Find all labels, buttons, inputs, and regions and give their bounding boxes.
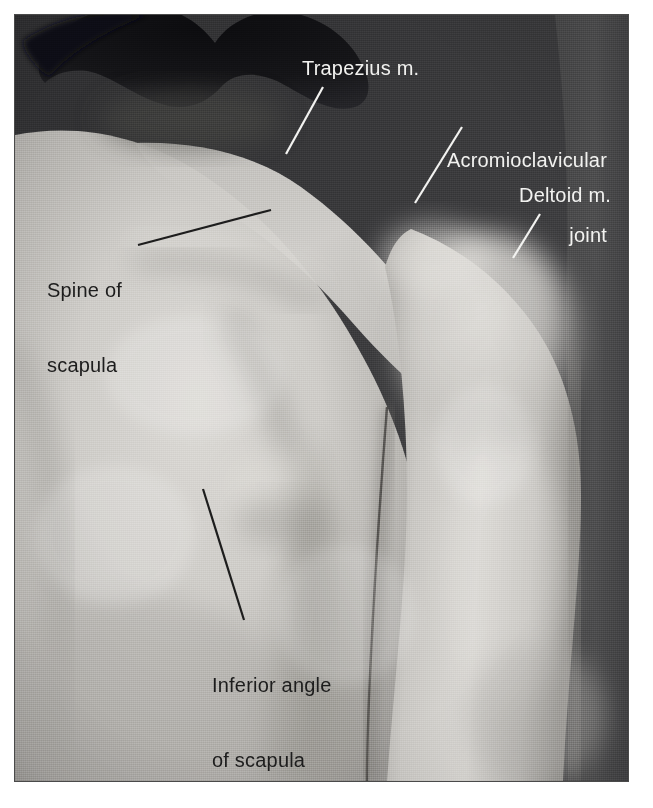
label-spine-of-scapula[interactable]: Spine of scapula <box>47 228 122 428</box>
label-acromioclavicular-joint-line1: Acromioclavicular <box>411 148 607 173</box>
label-acromioclavicular-joint-line2: joint <box>411 223 607 248</box>
label-deltoid[interactable]: Deltoid m. <box>519 183 611 208</box>
label-trapezius[interactable]: Trapezius m. <box>302 56 419 81</box>
label-spine-of-scapula-line1: Spine of <box>47 278 122 303</box>
label-inferior-angle-of-scapula-line2: of scapula <box>212 748 332 773</box>
leader-line-trapezius <box>286 87 323 154</box>
leader-line-inferior-angle-of-scapula <box>203 489 244 620</box>
label-inferior-angle-of-scapula-line1: Inferior angle <box>212 673 332 698</box>
label-inferior-angle-of-scapula[interactable]: Inferior angle of scapula <box>212 623 332 808</box>
leader-line-spine-of-scapula <box>138 210 271 245</box>
label-spine-of-scapula-line2: scapula <box>47 353 122 378</box>
anatomy-figure: Trapezius m. Acromioclavicular joint Del… <box>0 0 653 808</box>
